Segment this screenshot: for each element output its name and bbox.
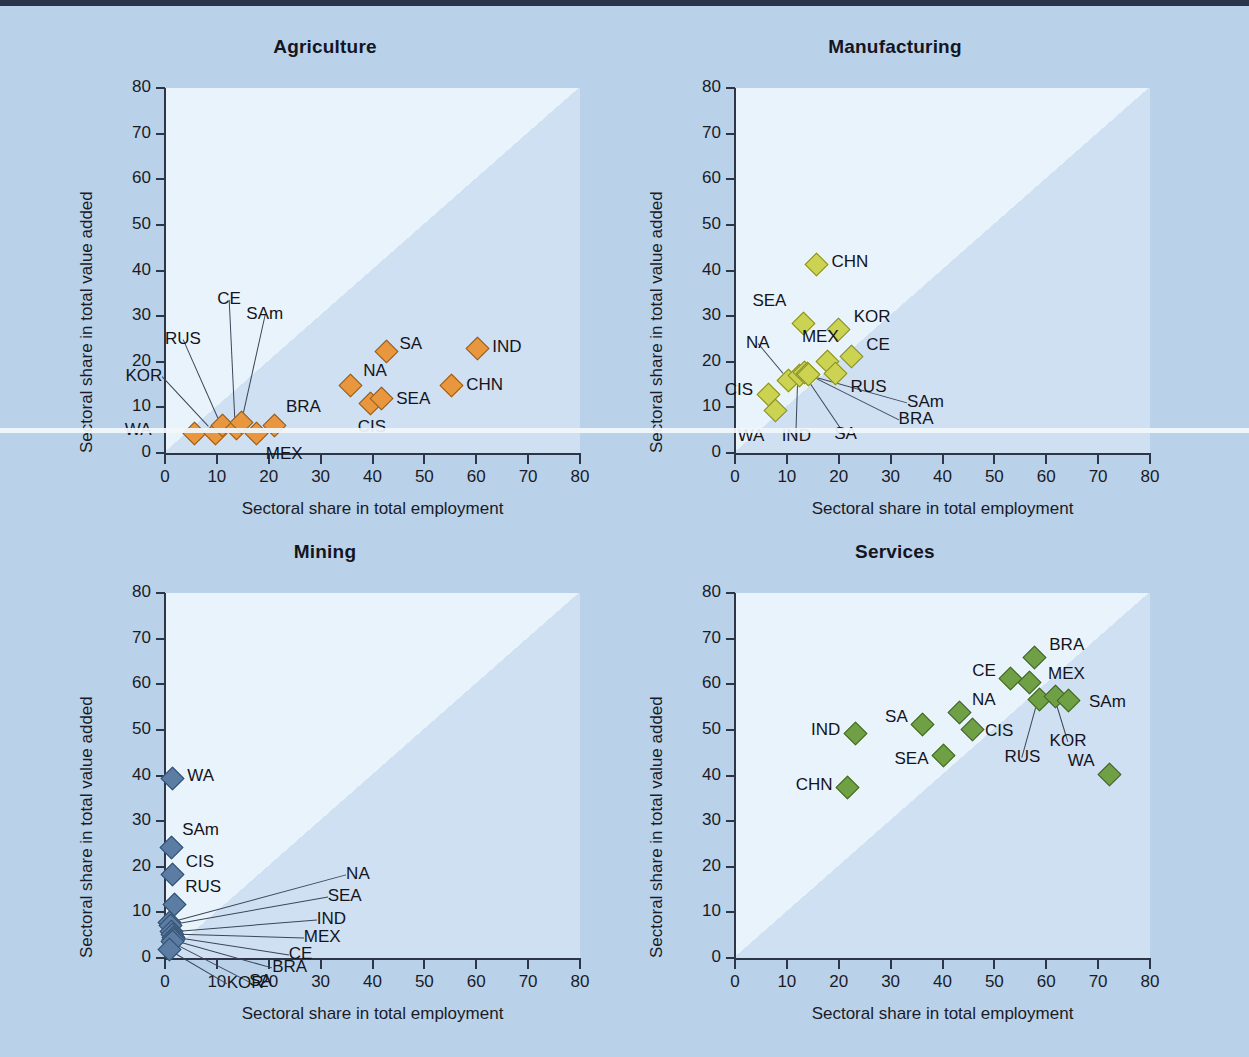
y-axis-tick <box>726 638 735 640</box>
panel-services: Services00101020203030404050506060707080… <box>590 541 1200 1041</box>
x-axis-tick <box>734 960 736 969</box>
y-axis-title: Sectoral share in total value added <box>647 191 667 453</box>
y-axis-tick-label: 0 <box>673 947 721 967</box>
y-axis-tick <box>156 224 165 226</box>
y-axis-tick-label: 20 <box>673 351 721 371</box>
y-axis-tick-label: 50 <box>673 214 721 234</box>
data-point-label: CHN <box>831 253 1031 270</box>
x-axis-tick <box>1149 455 1151 464</box>
y-axis-tick-label: 70 <box>673 123 721 143</box>
x-axis-tick <box>993 960 995 969</box>
x-axis-tick <box>786 960 788 969</box>
y-axis-tick <box>726 452 735 454</box>
x-axis-tick <box>1097 455 1099 464</box>
y-axis-tick <box>726 178 735 180</box>
data-point-label: IND <box>317 910 517 927</box>
x-axis-tick <box>164 455 166 464</box>
y-axis-tick-label: 80 <box>103 77 151 97</box>
y-axis-tick-label: 40 <box>103 260 151 280</box>
data-point-label: BRA <box>899 410 1099 427</box>
data-point-label: CE <box>796 662 996 679</box>
panel-title: Mining <box>20 541 630 563</box>
y-axis-tick <box>156 133 165 135</box>
y-axis-tick <box>156 270 165 272</box>
data-point-label: CE <box>866 336 1066 353</box>
y-axis-tick-label: 30 <box>673 810 721 830</box>
data-point-label: CIS <box>553 381 753 398</box>
data-point-label: BRA <box>1049 636 1249 653</box>
x-axis-tick <box>942 455 944 464</box>
y-axis-tick <box>156 911 165 913</box>
scan-band-upper <box>0 428 1249 433</box>
x-axis-tick <box>838 455 840 464</box>
y-axis-tick-label: 80 <box>103 582 151 602</box>
y-axis-tick <box>726 315 735 317</box>
x-axis-tick <box>993 455 995 464</box>
y-axis-tick <box>726 224 735 226</box>
y-axis-title: Sectoral share in total value added <box>77 191 97 453</box>
panel-agriculture: Agriculture00101020203030404050506060707… <box>20 36 630 536</box>
y-axis-tick-label: 70 <box>103 123 151 143</box>
data-point-label: KOR <box>0 367 162 384</box>
x-axis-tick <box>527 455 529 464</box>
x-axis-tick <box>838 960 840 969</box>
y-axis-tick <box>156 683 165 685</box>
data-point-label: WA <box>187 767 387 784</box>
y-axis-tick-label: 30 <box>103 810 151 830</box>
y-axis-tick <box>726 133 735 135</box>
x-axis-tick <box>890 960 892 969</box>
data-point-label: SEA <box>586 292 786 309</box>
y-axis-tick-label: 10 <box>673 396 721 416</box>
y-axis-tick-label: 40 <box>103 765 151 785</box>
y-axis-tick <box>156 820 165 822</box>
y-axis-tick <box>156 866 165 868</box>
y-axis-tick-label: 70 <box>103 628 151 648</box>
y-axis-tick-label: 80 <box>673 77 721 97</box>
x-axis-tick <box>1097 960 1099 969</box>
data-point-label: SAm <box>182 821 382 838</box>
x-axis-tick <box>475 455 477 464</box>
y-axis-tick <box>726 87 735 89</box>
x-axis-title: Sectoral share in total employment <box>735 499 1150 519</box>
y-axis-tick <box>156 178 165 180</box>
x-axis-tick <box>1149 960 1151 969</box>
data-point-label: SAm <box>165 305 365 322</box>
y-axis-tick-label: 40 <box>673 260 721 280</box>
panel-title: Services <box>590 541 1200 563</box>
y-axis-tick <box>156 957 165 959</box>
y-axis-tick <box>156 638 165 640</box>
y-axis-tick-label: 10 <box>103 901 151 921</box>
x-axis-tick <box>890 455 892 464</box>
x-axis-tick <box>1045 960 1047 969</box>
x-axis-title: Sectoral share in total employment <box>165 499 580 519</box>
data-point-label: MEX <box>1048 665 1248 682</box>
y-axis-tick-label: 50 <box>103 214 151 234</box>
data-point-label: WA <box>895 752 1095 769</box>
y-axis-tick-label: 50 <box>103 719 151 739</box>
panel-manufacturing: Manufacturing001010202030304040505060607… <box>590 36 1200 536</box>
y-axis-title: Sectoral share in total value added <box>77 696 97 958</box>
y-axis-tick <box>156 406 165 408</box>
y-axis-tick-label: 10 <box>673 901 721 921</box>
y-axis-tick <box>156 315 165 317</box>
x-axis-tick <box>579 960 581 969</box>
x-axis-title: Sectoral share in total employment <box>165 1004 580 1024</box>
y-axis-tick-label: 60 <box>103 168 151 188</box>
panel-mining: Mining0010102020303040405050606070708080… <box>20 541 630 1041</box>
data-point-label: SEA <box>328 887 528 904</box>
x-axis-tick <box>216 455 218 464</box>
y-axis-tick <box>726 957 735 959</box>
y-axis-tick <box>156 729 165 731</box>
data-point-label: CHN <box>633 776 833 793</box>
data-point-label: NA <box>346 865 546 882</box>
figure-four-panel-scatter: Agriculture00101020203030404050506060707… <box>0 6 1249 1057</box>
y-axis-tick <box>726 270 735 272</box>
x-axis-tick <box>786 455 788 464</box>
data-point-label: KOR <box>854 308 1054 325</box>
data-point-label: KOR <box>227 974 427 991</box>
y-axis-tick-label: 30 <box>103 305 151 325</box>
y-axis-tick <box>156 592 165 594</box>
x-axis-tick <box>942 960 944 969</box>
y-axis-tick-label: 60 <box>673 168 721 188</box>
y-axis-tick-label: 20 <box>673 856 721 876</box>
